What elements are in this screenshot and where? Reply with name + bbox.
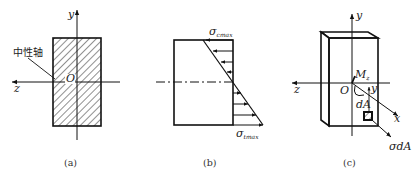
- y-distance-label: y: [370, 82, 378, 95]
- beam-top-face: [321, 32, 378, 38]
- compressive-stress-arrows: [206, 40, 233, 72]
- figure-canvas: y z O 中性轴 (a) σcmax σtmax (b): [0, 0, 415, 176]
- caption-b: (b): [203, 157, 217, 168]
- origin-label: O: [340, 84, 349, 97]
- z-axis-label: z: [293, 83, 300, 96]
- sigma-dA-label: σdA: [389, 140, 412, 153]
- sigma-cmax-label: σcmax: [209, 25, 233, 38]
- moment-label: Mz: [354, 68, 370, 81]
- y-axis-label: y: [67, 8, 75, 21]
- neutral-axis-leader: [28, 58, 55, 79]
- x-axis-label: x: [394, 112, 401, 125]
- neutral-axis-label: 中性轴: [13, 46, 43, 58]
- panel-c: y z x O Mz y dA σdA (c): [292, 9, 412, 168]
- caption-a: (a): [64, 157, 77, 168]
- beam-side-face: [321, 32, 329, 126]
- force-sigma-dA-arrow: [372, 120, 391, 137]
- panel-b: σcmax σtmax (b): [156, 25, 263, 168]
- caption-c: (c): [343, 157, 356, 168]
- y-axis-label: y: [355, 9, 363, 22]
- dA-label: dA: [356, 98, 371, 111]
- sigma-tmax-label: σtmax: [236, 127, 259, 140]
- z-axis-label: z: [13, 82, 20, 95]
- panel-a: y z O 中性轴 (a): [12, 8, 120, 168]
- origin-label: O: [66, 72, 75, 85]
- tensile-stress-arrows: [233, 93, 263, 125]
- area-element-dA: [364, 112, 372, 120]
